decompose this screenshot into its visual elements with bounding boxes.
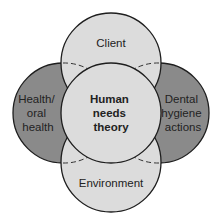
label-dental-hygiene-actions: Dental hygiene actions — [161, 93, 205, 133]
label-client: Client — [96, 37, 126, 49]
label-human-needs-theory: Human needs theory — [90, 93, 132, 133]
human-needs-diagram: Client Environment Health/ oral health D… — [0, 0, 223, 221]
label-environment: Environment — [79, 177, 144, 189]
